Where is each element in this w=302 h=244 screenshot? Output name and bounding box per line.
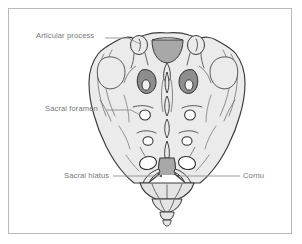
label-cornu: Cornu [243, 171, 264, 180]
auricular-surface-left [97, 57, 125, 89]
sacrum-body [89, 33, 245, 226]
endpoint-dot-cornu [177, 175, 179, 177]
auricular-surface-right [210, 57, 238, 89]
sacral-foramen-s1-left [137, 70, 156, 94]
anatomy-figure: Articular process Sacral foramen Sacral … [0, 0, 302, 244]
endpoint-dot-hiatus [160, 175, 162, 177]
label-sacral-hiatus: Sacral hiatus [64, 171, 109, 180]
sacral-foramen-s1-right [179, 70, 198, 94]
sacral-foramen-s3-left [143, 137, 153, 146]
label-articular-process: Articular process [36, 31, 94, 40]
coccyx-tip [163, 220, 171, 226]
sacral-foramen-s3-right [182, 137, 192, 146]
sacral-foramen-s2-left [140, 110, 151, 120]
sacral-foramen-s2-right [185, 110, 196, 120]
coccyx [140, 183, 194, 226]
label-sacral-foramen: Sacral foramen [45, 104, 98, 113]
coccyx-segment-2 [152, 199, 182, 212]
coccyx-segment-3 [160, 212, 174, 220]
